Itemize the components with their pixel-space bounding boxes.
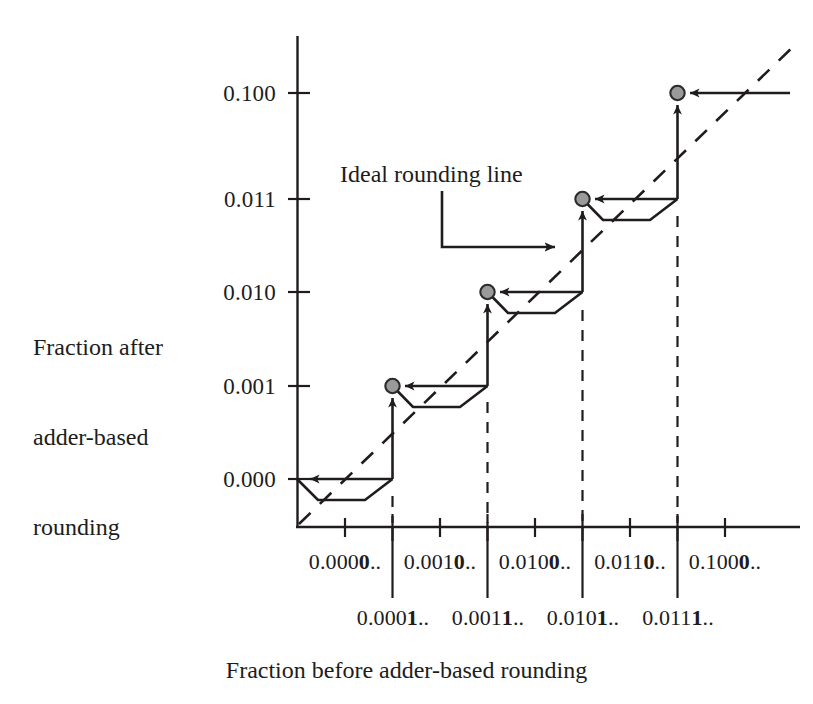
y-axis-title-line1: Fraction after [33,332,208,362]
x-axis-title: Fraction before adder-based rounding [0,655,813,685]
x-boundary-label-3-text: 0.0111.. [642,605,714,630]
step-dip-0.001 [393,386,488,407]
y-axis-title-line3: rounding [33,512,208,542]
x-interval-label-1-text: 0.0010.. [404,549,476,574]
x-boundary-label-2-text: 0.0101.. [547,605,619,630]
dot-0.011 [575,192,589,206]
x-interval-label-4-text: 0.1000.. [689,549,761,574]
x-interval-label-3: 0.0110.. [585,549,675,575]
step-corner-dots [385,86,684,393]
x-interval-label-0: 0.0000.. [300,549,390,575]
y-axis-title-line2: adder-based [33,422,208,452]
step-level-0.000 [297,479,393,500]
y-tick-marks [288,93,310,479]
x-interval-label-1: 0.0010.. [395,549,485,575]
ideal-rounding-line-annotation: Ideal rounding line [340,161,523,188]
boundary-dashed-lines [393,216,678,523]
x-boundary-label-3: 0.0111.. [633,605,723,631]
step-dip-0.000 [297,479,393,500]
x-boundary-label-1-text: 0.0011.. [452,605,524,630]
x-boundary-label-2: 0.0101.. [538,605,628,631]
step-level-0.100 [678,93,791,199]
step-level-0.010 [488,292,583,386]
y-tick-label-0.100: 0.100 [186,81,276,107]
annotation-leader-arrow [442,191,555,247]
step-level-0.011 [583,199,678,292]
y-tick-label-0.011: 0.011 [186,187,276,213]
x-interval-label-3-text: 0.0110.. [594,549,666,574]
x-boundary-label-1: 0.0011.. [443,605,533,631]
x-interval-label-2: 0.0100.. [490,549,580,575]
figure-rounding-staircase: 0.100 0.011 0.010 0.001 0.000 0.0000.. 0… [0,0,813,704]
dot-0.010 [480,285,494,299]
ideal-rounding-line [299,42,798,524]
x-boundary-label-0-text: 0.0001.. [357,605,429,630]
dot-0.100 [670,86,684,100]
x-interval-label-2-text: 0.0100.. [499,549,571,574]
step-dip-0.011 [583,199,678,220]
x-interval-label-0-text: 0.0000.. [309,549,381,574]
y-axis-title: Fraction after adder-based rounding [33,272,208,602]
x-interval-label-4: 0.1000.. [680,549,770,575]
step-level-0.001 [393,386,488,479]
x-boundary-label-0: 0.0001.. [348,605,438,631]
dot-0.001 [385,379,399,393]
